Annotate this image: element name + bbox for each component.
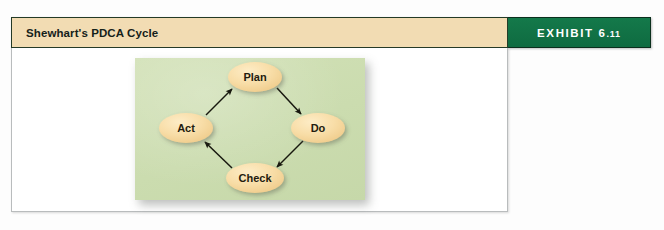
plan-node-label: Plan — [243, 71, 267, 83]
pdca-edges — [205, 88, 303, 168]
check-node-label: Check — [238, 172, 272, 184]
pdca-cycle-diagram: Plan Do Check Act — [135, 58, 365, 200]
pdca-node-plan: Plan — [228, 62, 282, 92]
act-node-label: Act — [177, 122, 195, 134]
pdca-diagram-panel: Plan Do Check Act — [135, 58, 365, 200]
exhibit-number-tab: EXHIBIT 6.11 — [508, 17, 651, 48]
pdca-node-act: Act — [159, 113, 213, 143]
exhibit-label-prefix: EXHIBIT — [537, 27, 598, 39]
edge-check-to-act — [205, 142, 232, 168]
edge-plan-to-do — [277, 88, 301, 114]
exhibit-label: EXHIBIT 6.11 — [537, 27, 621, 39]
page-title: Shewhart's PDCA Cycle — [26, 27, 158, 39]
exhibit-title-strip: Shewhart's PDCA Cycle — [11, 17, 508, 48]
edge-act-to-plan — [206, 89, 232, 115]
exhibit-header-band: Shewhart's PDCA Cycle EXHIBIT 6.11 — [11, 17, 651, 48]
pdca-node-do: Do — [291, 113, 345, 143]
scanned-page: Shewhart's PDCA Cycle EXHIBIT 6.11 — [0, 0, 664, 230]
exhibit-number-minor: 11 — [610, 29, 621, 39]
do-node-label: Do — [311, 122, 326, 134]
pdca-node-check: Check — [226, 163, 284, 193]
edge-do-to-check — [277, 141, 303, 167]
